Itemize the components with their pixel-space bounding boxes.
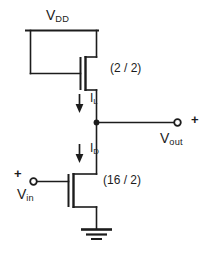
vout-symbol: V xyxy=(160,130,169,146)
driver-transistor-ratio-label: (16 / 2) xyxy=(103,174,141,186)
input-voltage-label: Vin xyxy=(17,187,34,201)
load-current-arrow-head xyxy=(76,104,84,113)
drive-current-subscript: D xyxy=(93,147,99,156)
load-current-label: IL xyxy=(90,92,98,104)
vin-symbol: V xyxy=(17,186,26,202)
vout-subscript: out xyxy=(169,137,182,147)
output-terminal-ring[interactable] xyxy=(174,119,181,126)
vdd-subscript: DD xyxy=(55,14,69,24)
load-current-subscript: L xyxy=(93,97,98,106)
output-polarity-label: + xyxy=(191,113,199,126)
output-voltage-label: Vout xyxy=(160,131,183,145)
drive-current-label: ID xyxy=(90,142,99,154)
vdd-label: VDD xyxy=(46,8,69,22)
load-transistor-ratio-label: (2 / 2) xyxy=(110,62,141,74)
circuit-schematic-svg xyxy=(0,0,201,254)
schematic-canvas: VDD (2 / 2) IL ID + Vout + Vin (16 / 2) xyxy=(0,0,201,254)
input-polarity-label: + xyxy=(14,167,22,180)
vin-subscript: in xyxy=(26,193,34,203)
vdd-symbol: V xyxy=(46,7,55,23)
input-terminal-ring[interactable] xyxy=(30,178,37,185)
drive-current-arrow-head xyxy=(76,154,84,163)
